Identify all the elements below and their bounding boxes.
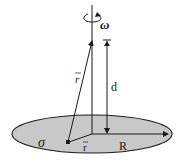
source-point <box>66 140 70 144</box>
rotating-disk-diagram: ω d R r r σ <box>0 0 180 164</box>
omega-label: ω <box>100 17 109 32</box>
svg-text:r: r <box>75 73 80 85</box>
R-label: R <box>119 139 127 153</box>
svg-text:r: r <box>83 141 87 153</box>
d-label: d <box>111 80 117 94</box>
r-prime-label: r <box>75 73 81 85</box>
sigma-label: σ <box>38 135 46 150</box>
